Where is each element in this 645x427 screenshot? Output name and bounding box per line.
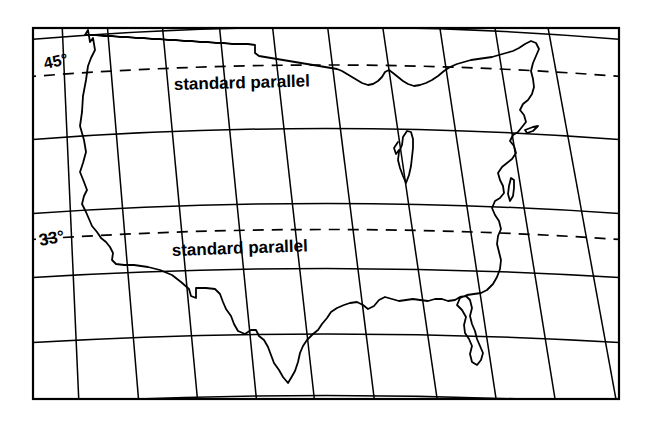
figure-background: [0, 0, 645, 427]
map-canvas: 45° 33° standard parallel standard paral…: [0, 0, 645, 427]
label-standard-parallel-upper: standard parallel: [174, 71, 311, 94]
map-figure: 45° 33° standard parallel standard paral…: [0, 0, 645, 427]
